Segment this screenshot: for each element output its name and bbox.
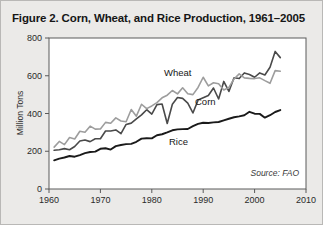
y-tick-label: 600 (27, 71, 42, 81)
x-tick-label: 2010 (296, 195, 316, 205)
plot-background (49, 38, 306, 189)
x-tick-label: 1970 (90, 195, 110, 205)
chart-container: 0200400600800 196019701980199020002010 M… (1, 1, 323, 225)
figure-panel: Figure 2. Corn, Wheat, and Rice Producti… (0, 0, 323, 225)
x-axis-tick-labels: 196019701980199020002010 (39, 195, 316, 205)
x-tick-label: 1990 (193, 195, 213, 205)
series-label-corn: Corn (195, 96, 216, 107)
y-axis-title: Million Tons (15, 91, 25, 135)
y-axis-ticks (45, 38, 49, 189)
series-label-rice: Rice (169, 136, 188, 147)
y-tick-label: 800 (27, 33, 42, 43)
source-note: Source: FAO (251, 168, 300, 178)
x-tick-label: 1960 (39, 195, 59, 205)
y-tick-label: 0 (37, 184, 42, 194)
x-tick-label: 2000 (245, 195, 265, 205)
series-label-wheat: Wheat (164, 67, 192, 78)
x-axis-ticks (49, 189, 306, 193)
y-tick-label: 200 (27, 146, 42, 156)
x-tick-label: 1980 (142, 195, 162, 205)
y-axis-tick-labels: 0200400600800 (27, 33, 42, 194)
line-chart: 0200400600800 196019701980199020002010 M… (1, 1, 323, 225)
y-tick-label: 400 (27, 109, 42, 119)
